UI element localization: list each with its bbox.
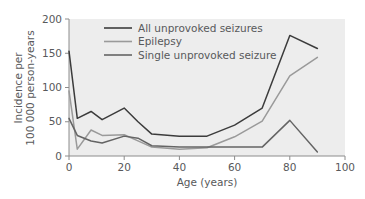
chart-figure: 050100150200 020406080100 All unprovoked…	[0, 0, 365, 199]
y-axis-title-line2: 100 000 person-years	[24, 30, 36, 145]
y-tick-label: 50	[49, 115, 62, 127]
x-tick-label: 40	[173, 161, 186, 173]
legend-label-0: All unprovoked seizures	[138, 22, 263, 34]
legend-label-2: Single unprovoked seizure	[138, 49, 276, 61]
x-tick-label: 60	[228, 161, 241, 173]
y-tick-label: 0	[55, 150, 62, 162]
y-tick-label: 200	[42, 13, 62, 25]
y-axis-ticks: 050100150200	[42, 13, 69, 162]
x-axis-ticks: 020406080100	[66, 156, 355, 173]
x-tick-label: 20	[118, 161, 131, 173]
x-axis-title: Age (years)	[177, 176, 238, 188]
legend-label-1: Epilepsy	[138, 35, 182, 47]
incidence-line-chart: 050100150200 020406080100 All unprovoked…	[0, 0, 365, 199]
y-tick-label: 150	[42, 47, 62, 59]
x-tick-label: 100	[335, 161, 355, 173]
y-axis-title-line1: Incidence per	[12, 52, 24, 124]
x-tick-label: 80	[283, 161, 296, 173]
y-tick-label: 100	[42, 81, 62, 93]
x-tick-label: 0	[66, 161, 73, 173]
